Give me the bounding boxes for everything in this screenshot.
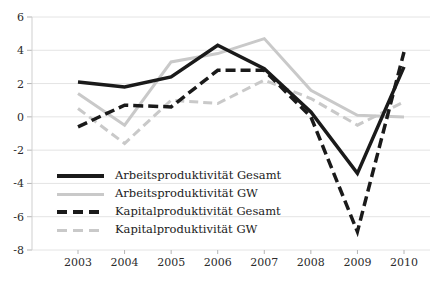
x-axis-tick-label: 2006 xyxy=(204,256,232,269)
y-axis-tick-label: -6 xyxy=(13,211,24,224)
legend-line-sample-dashed-black xyxy=(57,210,104,214)
legend-item-kapitalproduktivitaet-gesamt: Kapitalproduktivität Gesamt xyxy=(57,203,281,221)
series-line-1 xyxy=(78,39,404,126)
legend-item-arbeitsproduktivitaet-gesamt: Arbeitsproduktivität Gesamt xyxy=(57,167,281,185)
y-axis-tick-label: 4 xyxy=(17,44,24,57)
x-axis-tick-label: 2003 xyxy=(64,256,92,269)
legend-label: Kapitalproduktivität GW xyxy=(115,224,257,236)
legend-label: Kapitalproduktivität Gesamt xyxy=(115,206,281,218)
x-axis-tick-label: 2008 xyxy=(297,256,325,269)
y-axis-tick-label: 0 xyxy=(17,111,24,124)
y-axis-tick-label: 6 xyxy=(17,11,24,24)
line-chart: 6420-2-4-6-82003200420052006200720082009… xyxy=(0,0,435,284)
x-axis-tick-label: 2004 xyxy=(111,256,139,269)
legend-line-sample-solid-black xyxy=(57,174,104,178)
y-axis-tick-label: -4 xyxy=(13,177,24,190)
y-axis-tick-label: -2 xyxy=(13,144,24,157)
series-line-3 xyxy=(78,80,404,143)
legend-label: Arbeitsproduktivität Gesamt xyxy=(115,170,281,182)
legend-item-kapitalproduktivitaet-gw: Kapitalproduktivität GW xyxy=(57,221,281,239)
y-axis-tick-label: -8 xyxy=(13,244,24,257)
series-line-0 xyxy=(78,45,404,173)
chart-legend: Arbeitsproduktivität Gesamt Arbeitsprodu… xyxy=(57,167,281,239)
x-axis-tick-label: 2010 xyxy=(390,256,418,269)
y-axis-tick-label: 2 xyxy=(17,78,24,91)
x-axis-tick-label: 2009 xyxy=(343,256,371,269)
x-axis-tick-label: 2005 xyxy=(157,256,185,269)
x-axis-tick-label: 2007 xyxy=(250,256,278,269)
legend-item-arbeitsproduktivitaet-gw: Arbeitsproduktivität GW xyxy=(57,185,281,203)
chart-container: 6420-2-4-6-82003200420052006200720082009… xyxy=(0,0,435,284)
legend-label: Arbeitsproduktivität GW xyxy=(115,188,258,200)
legend-line-sample-solid-gray xyxy=(57,193,104,196)
legend-line-sample-dashed-gray xyxy=(57,229,104,232)
